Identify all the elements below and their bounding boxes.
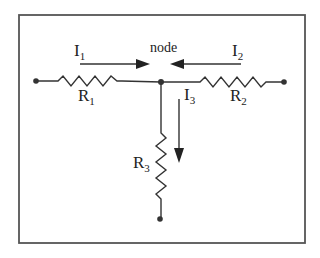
arrowhead-left-icon <box>170 59 184 69</box>
current-arrow-i2 <box>170 59 241 69</box>
label-r3: R3 <box>133 153 150 174</box>
label-i3: I3 <box>184 85 196 106</box>
right-branch <box>161 77 287 87</box>
right-terminal <box>281 79 287 85</box>
bottom-branch <box>156 82 166 222</box>
current-arrow-i1 <box>80 59 150 69</box>
arrowhead-down-icon <box>174 148 184 163</box>
label-r2: R2 <box>230 86 247 107</box>
bottom-terminal <box>157 216 163 222</box>
resistor-r3 <box>156 82 166 219</box>
node-label: node <box>150 40 177 55</box>
arrowhead-right-icon <box>136 59 150 69</box>
circuit-diagram: node I1 I2 I3 R1 R2 R3 <box>0 0 320 258</box>
label-i1: I1 <box>74 41 85 62</box>
resistor-r1 <box>36 76 161 86</box>
current-arrow-i3 <box>174 99 184 163</box>
left-branch <box>33 76 161 86</box>
label-r1: R1 <box>78 86 95 107</box>
label-i2: I2 <box>232 41 243 62</box>
resistor-r2 <box>161 77 284 87</box>
